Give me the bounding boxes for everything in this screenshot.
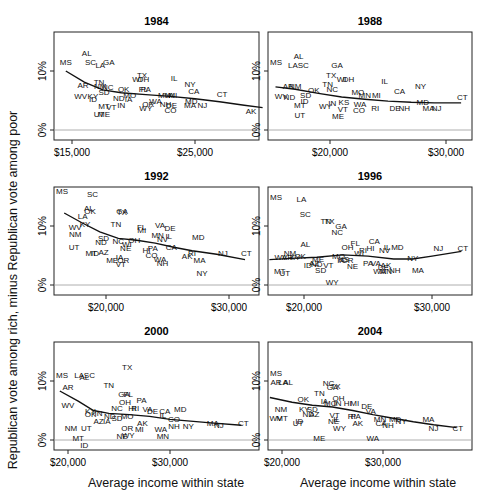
x-tick-label: $20,000 <box>88 302 125 313</box>
state-label: MA <box>412 266 425 275</box>
state-label: NH <box>398 104 410 113</box>
state-label: MI <box>137 226 146 235</box>
state-label: NY <box>196 269 208 278</box>
state-label: KS <box>339 98 350 107</box>
state-label: IL <box>165 232 172 241</box>
state-label: TX <box>122 363 133 372</box>
state-label: ND <box>95 238 107 247</box>
state-label: RI <box>371 104 379 113</box>
state-label: MN <box>359 91 372 100</box>
panel-title: 1992 <box>144 170 168 182</box>
state-label: MA <box>193 256 206 265</box>
state-label: SD <box>98 88 109 97</box>
y-tick-label: 10% <box>37 61 48 81</box>
y-tick-label: 0% <box>37 278 48 293</box>
state-label: MA <box>184 101 197 110</box>
state-label: VT <box>106 103 116 112</box>
state-label: DH <box>343 75 355 84</box>
state-label: DE <box>147 407 158 416</box>
state-label: SC <box>298 61 309 70</box>
state-label: NH <box>157 259 169 268</box>
state-label: MS <box>270 369 282 378</box>
state-label: SC <box>87 190 98 199</box>
state-label: CA <box>166 243 178 252</box>
state-label: TN <box>103 381 114 390</box>
panel-2000: 200010%0%$20,000$30,000MSLAALSCTXTNARGAF… <box>37 325 259 468</box>
state-label: WY <box>333 424 347 433</box>
state-label: NY <box>183 422 195 431</box>
y-tick-label: 10% <box>251 61 262 81</box>
state-label: FL <box>139 85 149 94</box>
state-label: CA <box>394 87 406 96</box>
y-tick-label: 10% <box>251 216 262 236</box>
state-label: NJ <box>429 424 439 433</box>
state-label: AL <box>283 378 293 387</box>
state-label: TN <box>111 220 122 229</box>
panel-title: 1996 <box>358 170 382 182</box>
state-label: VT <box>323 261 333 270</box>
state-label: UT <box>81 424 92 433</box>
panel-1996: 199610%0%$20,000$30,000MSLASCTNTXGANCALN… <box>251 170 472 313</box>
state-label: TX <box>324 217 335 226</box>
panel-title: 2004 <box>358 325 383 337</box>
state-label: MS <box>270 58 282 67</box>
state-label: NM <box>69 230 82 239</box>
state-label: NC <box>111 404 123 413</box>
state-label: MI <box>168 91 177 100</box>
x-tick-label: $30,000 <box>211 302 248 313</box>
state-label: MN <box>157 432 170 441</box>
state-label: WY <box>326 278 340 287</box>
y-tick-label: 10% <box>37 216 48 236</box>
state-label: NJ <box>434 244 444 253</box>
state-label: AL <box>300 240 310 249</box>
state-label: WV <box>62 401 76 410</box>
state-label: LA <box>297 195 307 204</box>
state-label: CO <box>353 106 365 115</box>
state-label: MD <box>391 243 404 252</box>
x-tick-label: $30,000 <box>365 457 402 468</box>
state-label: CT <box>452 424 463 433</box>
panel-1984: 198410%0%$15,000$25,000MSALSCLAGAARTNNMN… <box>37 15 263 158</box>
state-label: UT <box>279 269 290 278</box>
state-label: WI <box>354 249 364 258</box>
state-label: GA <box>331 61 343 70</box>
state-label: SC <box>84 371 95 380</box>
state-label: NY <box>396 417 408 426</box>
x-tick-label: $20,000 <box>264 457 301 468</box>
state-label: ID <box>89 95 97 104</box>
state-label: CT <box>457 93 468 102</box>
state-label: NJ <box>218 249 228 258</box>
state-label: MD <box>192 233 205 242</box>
state-label: TX <box>330 382 341 391</box>
state-label: MO <box>121 412 134 421</box>
state-label: AK <box>352 419 363 428</box>
state-label: SC <box>300 210 311 219</box>
state-label: CO <box>164 106 176 115</box>
x-tick-label: $20,000 <box>50 457 87 468</box>
state-label: ID <box>295 417 303 426</box>
state-label: AK <box>246 107 257 116</box>
small-multiples-chart: 198410%0%$15,000$25,000MSALSCLAGAARTNNMN… <box>0 0 488 500</box>
y-tick-label: 0% <box>37 433 48 448</box>
state-label: NM <box>275 405 288 414</box>
panel-title: 1984 <box>144 15 169 27</box>
state-label: IN <box>334 399 342 408</box>
state-label: VT <box>116 260 126 269</box>
state-label: NH <box>168 422 180 431</box>
state-label: IL <box>384 243 391 252</box>
state-label: RI <box>131 404 139 413</box>
y-tick-label: 0% <box>251 433 262 448</box>
state-label: OH <box>137 75 149 84</box>
state-label: AR <box>62 383 73 392</box>
state-label: WV <box>74 92 88 101</box>
state-label: TX <box>326 71 337 80</box>
state-label: NY <box>415 82 427 91</box>
state-label: OK <box>297 395 309 404</box>
y-tick-label: 0% <box>251 123 262 138</box>
state-label: WY <box>122 431 136 440</box>
state-label: MT <box>276 414 288 423</box>
state-label: MI <box>350 399 359 408</box>
state-label: GA <box>116 207 128 216</box>
state-label: NC <box>327 85 339 94</box>
state-label: AR <box>78 81 89 90</box>
